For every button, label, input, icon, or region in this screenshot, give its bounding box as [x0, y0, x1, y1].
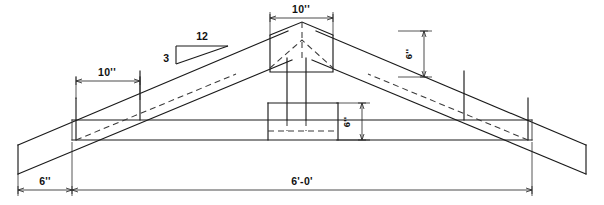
truss-drawing-canvas: 12 3 10'' 10'' [0, 0, 604, 205]
pitch-run-label: 12 [196, 30, 208, 42]
dimension-bottom-row [18, 142, 532, 196]
center-block-depth-label: 6'' [341, 117, 352, 128]
pitch-triangle [176, 46, 228, 64]
pitch-rise-label: 3 [163, 52, 169, 64]
left-rafter [18, 31, 292, 174]
truss-elevation-svg: 12 3 10'' 10'' [0, 0, 604, 205]
left-plate-width-label: 10'' [98, 66, 116, 78]
left-tail-length-label: 6'' [39, 175, 51, 187]
span-total-label: 6'-0' [291, 175, 313, 187]
rafter-depth-label: 6'' [403, 49, 414, 60]
right-gusset-plate [368, 71, 528, 140]
dimension-left-plate-width [76, 76, 140, 100]
peak-width-label: 10'' [292, 3, 310, 15]
right-rafter [312, 31, 586, 174]
center-block [268, 103, 338, 140]
